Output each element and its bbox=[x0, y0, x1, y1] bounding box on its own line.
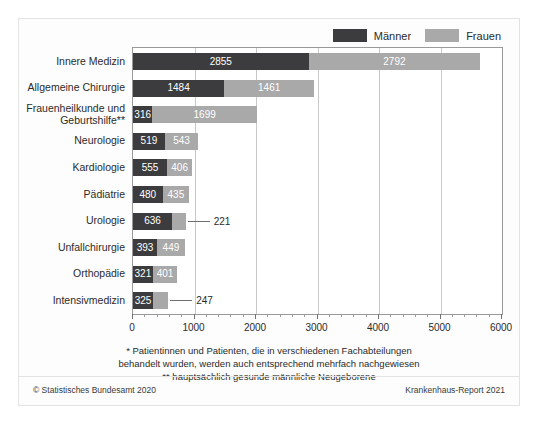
axis-tick-minor bbox=[403, 314, 404, 317]
axis-tick-major bbox=[132, 314, 133, 319]
bar-row[interactable]: 28552792 bbox=[133, 53, 502, 70]
axis-tick-label: 1000 bbox=[182, 322, 204, 333]
bar-segment-maenner[interactable]: 1484 bbox=[133, 80, 224, 97]
axis-tick-label: 6000 bbox=[490, 322, 512, 333]
axis-tick-minor bbox=[218, 314, 219, 317]
bar-row[interactable]: 325247 bbox=[133, 292, 502, 309]
axis-tick-minor bbox=[267, 314, 268, 317]
bar-segment-maenner[interactable]: 2855 bbox=[133, 53, 309, 70]
axis-tick-label: 3000 bbox=[305, 322, 327, 333]
axis-tick-label: 4000 bbox=[367, 322, 389, 333]
category-label: Pädiatrie bbox=[0, 188, 125, 200]
bar-segment-maenner[interactable]: 636 bbox=[133, 213, 172, 230]
bar-segment-frauen[interactable]: 449 bbox=[157, 239, 185, 256]
bar-segment-frauen[interactable]: 401 bbox=[153, 266, 178, 283]
footnote-line-1: * Patientinnen und Patienten, die in ver… bbox=[19, 344, 519, 357]
bar-segment-maenner[interactable]: 555 bbox=[133, 159, 167, 176]
bar-segment-frauen[interactable] bbox=[153, 292, 168, 309]
bar-segment-frauen[interactable]: 406 bbox=[167, 159, 192, 176]
bar-segment-frauen[interactable]: 435 bbox=[163, 186, 190, 203]
bar-row[interactable]: 3161699 bbox=[133, 106, 502, 123]
bar-segment-frauen[interactable]: 543 bbox=[165, 133, 198, 150]
axis-tick-label: 0 bbox=[129, 322, 135, 333]
axis-tick-minor bbox=[464, 314, 465, 317]
bar-segment-frauen[interactable]: 1461 bbox=[224, 80, 314, 97]
bar-row[interactable]: 636221 bbox=[133, 213, 502, 230]
axis-tick-minor bbox=[452, 314, 453, 317]
chart-figure: Männer Frauen Innere MedizinAllgemeine C… bbox=[18, 18, 520, 406]
axis-tick-minor bbox=[353, 314, 354, 317]
report-title: Krankenhaus-Report 2021 bbox=[405, 385, 505, 395]
bar-segment-frauen[interactable]: 1699 bbox=[152, 106, 256, 123]
axis-tick-major bbox=[440, 314, 441, 319]
axis-tick-minor bbox=[292, 314, 293, 317]
axis-tick-major bbox=[501, 314, 502, 319]
axis-tick-minor bbox=[206, 314, 207, 317]
category-label: Intensivmedizin bbox=[0, 294, 125, 306]
axis-tick-minor bbox=[427, 314, 428, 317]
category-label: Urologie bbox=[0, 214, 125, 226]
bar-row[interactable]: 519543 bbox=[133, 133, 502, 150]
bar-segment-frauen[interactable]: 2792 bbox=[309, 53, 481, 70]
axis-tick-minor bbox=[341, 314, 342, 317]
category-label: Unfallchirurgie bbox=[0, 241, 125, 253]
bar-segment-maenner[interactable]: 519 bbox=[133, 133, 165, 150]
axis-tick-major bbox=[255, 314, 256, 319]
category-label: Frauenheilkunde undGeburtshilfe** bbox=[0, 102, 125, 126]
axis-tick-major bbox=[317, 314, 318, 319]
category-label: Allgemeine Chirurgie bbox=[0, 81, 125, 93]
bar-segment-maenner[interactable]: 325 bbox=[133, 292, 153, 309]
bar-value-label-frauen: 221 bbox=[214, 213, 231, 230]
axis-tick-minor bbox=[366, 314, 367, 317]
footnote-line-2: behandelt wurden, werden auch entspreche… bbox=[19, 357, 519, 370]
axis-tick-minor bbox=[157, 314, 158, 317]
bar-row[interactable]: 480435 bbox=[133, 186, 502, 203]
bar-segment-maenner[interactable]: 316 bbox=[133, 106, 152, 123]
bar-row[interactable]: 555406 bbox=[133, 159, 502, 176]
axis-tick-major bbox=[194, 314, 195, 319]
bar-segment-frauen[interactable] bbox=[172, 213, 186, 230]
bar-segment-maenner[interactable]: 393 bbox=[133, 239, 157, 256]
axis-tick-minor bbox=[489, 314, 490, 317]
axis-tick-minor bbox=[243, 314, 244, 317]
axis-tick-major bbox=[378, 314, 379, 319]
category-label: Neurologie bbox=[0, 134, 125, 146]
bar-value-label-frauen: 247 bbox=[196, 292, 213, 309]
category-label: Innere Medizin bbox=[0, 55, 125, 67]
axis-tick-minor bbox=[181, 314, 182, 317]
axis-tick-minor bbox=[280, 314, 281, 317]
bar-segment-maenner[interactable]: 480 bbox=[133, 186, 163, 203]
value-axis: 0100020003000400050006000 bbox=[132, 314, 501, 340]
axis-tick-label: 5000 bbox=[428, 322, 450, 333]
axis-tick-minor bbox=[415, 314, 416, 317]
source-row: © Statistisches Bundesamt 2020 Krankenha… bbox=[19, 376, 519, 405]
copyright-text: © Statistisches Bundesamt 2020 bbox=[33, 385, 156, 395]
bar-segment-maenner[interactable]: 321 bbox=[133, 266, 153, 283]
category-label: Kardiologie bbox=[0, 161, 125, 173]
label-leader-line bbox=[170, 300, 192, 301]
label-leader-line bbox=[188, 221, 210, 222]
axis-tick-label: 2000 bbox=[244, 322, 266, 333]
bar-row[interactable]: 321401 bbox=[133, 266, 502, 283]
plot-area: 2855279214841461316169951954355540648043… bbox=[132, 47, 503, 315]
axis-tick-minor bbox=[390, 314, 391, 317]
axis-tick-minor bbox=[304, 314, 305, 317]
axis-tick-minor bbox=[230, 314, 231, 317]
axis-tick-minor bbox=[476, 314, 477, 317]
axis-tick-minor bbox=[169, 314, 170, 317]
axis-tick-minor bbox=[329, 314, 330, 317]
axis-tick-minor bbox=[144, 314, 145, 317]
bar-row[interactable]: 14841461 bbox=[133, 80, 502, 97]
category-label: Orthopädie bbox=[0, 267, 125, 279]
bar-row[interactable]: 393449 bbox=[133, 239, 502, 256]
